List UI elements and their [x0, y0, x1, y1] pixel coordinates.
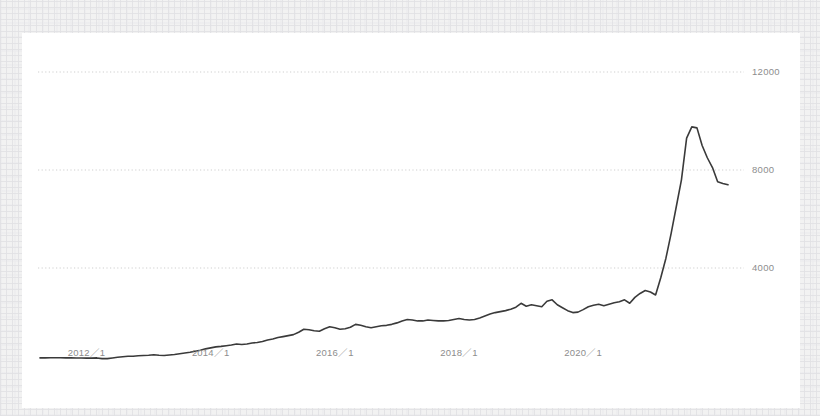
x-tick-label-2012-1: 2012／1 — [68, 345, 106, 359]
page-root: 4000800012000 2012／12014／12016／12018／120… — [0, 0, 820, 416]
x-tick-label-2018-1: 2018／1 — [440, 345, 478, 359]
y-tick-label-8000: 8000 — [752, 164, 774, 175]
series-line-path — [40, 127, 728, 359]
chart-plot-area: 4000800012000 2012／12014／12016／12018／120… — [22, 33, 800, 408]
gridlines-group — [38, 72, 744, 268]
x-tick-label-2014-1: 2014／1 — [192, 345, 230, 359]
x-tick-label-2016-1: 2016／1 — [316, 345, 354, 359]
x-tick-label-2020-1: 2020／1 — [564, 345, 602, 359]
y-tick-label-4000: 4000 — [752, 262, 774, 273]
line-chart-svg — [22, 33, 800, 408]
series-group — [40, 127, 728, 359]
chart-card: 4000800012000 2012／12014／12016／12018／120… — [22, 33, 800, 408]
y-tick-label-12000: 12000 — [752, 66, 780, 77]
